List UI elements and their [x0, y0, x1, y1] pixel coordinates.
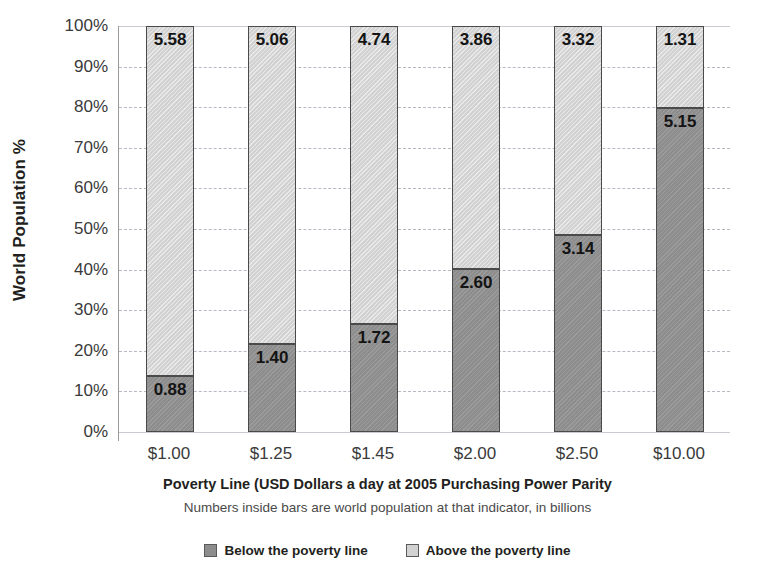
bar-value-label: 1.31: [657, 30, 703, 50]
bar-column[interactable]: 5.580.88: [146, 26, 194, 432]
bar-segment-below-poverty-line[interactable]: 1.72: [350, 324, 398, 432]
y-axis-tick-labels: 0%10%20%30%40%50%60%70%80%90%100%: [40, 26, 112, 432]
y-axis-tick-label: 10%: [74, 381, 108, 401]
y-axis-tick-label: 20%: [74, 341, 108, 361]
bar-segment-above-poverty-line[interactable]: 1.31: [656, 26, 704, 108]
bar-segment-below-poverty-line[interactable]: 5.15: [656, 108, 704, 432]
gridline: [119, 310, 730, 311]
bar-segment-below-poverty-line[interactable]: 2.60: [452, 269, 500, 432]
y-axis-tick-label: 40%: [74, 260, 108, 280]
bar-segment-above-poverty-line[interactable]: 3.86: [452, 26, 500, 269]
bar-value-label: 3.32: [555, 30, 601, 50]
bar-segment-below-poverty-line[interactable]: 1.40: [248, 344, 296, 432]
x-axis-tick-label: $1.25: [250, 444, 293, 464]
legend-swatch-icon: [406, 544, 419, 557]
gridline: [119, 188, 730, 189]
gridline: [119, 107, 730, 108]
bar-value-label: 2.60: [453, 273, 499, 293]
x-axis-tick-label: $2.50: [556, 444, 599, 464]
x-axis-tick-label: $1.45: [352, 444, 395, 464]
bar-segment-above-poverty-line[interactable]: 5.58: [146, 26, 194, 376]
plot-area: 5.580.885.061.404.741.723.862.603.323.14…: [118, 26, 730, 432]
y-axis-tick-label: 30%: [74, 300, 108, 320]
bar-value-label: 3.14: [555, 239, 601, 259]
bar-segment-above-poverty-line[interactable]: 5.06: [248, 26, 296, 344]
y-axis-tick-label: 0%: [83, 422, 108, 442]
y-axis-title-label: World Population %: [10, 139, 30, 301]
chart-legend: Below the poverty lineAbove the poverty …: [0, 543, 775, 558]
gridline: [119, 270, 730, 271]
bar-value-label: 1.72: [351, 328, 397, 348]
bar-segment-below-poverty-line[interactable]: 0.88: [146, 376, 194, 432]
bar-column[interactable]: 3.862.60: [452, 26, 500, 432]
x-axis-tick-label: $2.00: [454, 444, 497, 464]
y-axis-tick-label: 100%: [65, 16, 108, 36]
bar-column[interactable]: 5.061.40: [248, 26, 296, 432]
bar-column[interactable]: 4.741.72: [350, 26, 398, 432]
legend-label: Below the poverty line: [224, 543, 367, 558]
gridline: [119, 432, 730, 433]
bar-column[interactable]: 3.323.14: [554, 26, 602, 432]
gridline: [119, 391, 730, 392]
y-axis-tick-label: 60%: [74, 178, 108, 198]
bar-segment-above-poverty-line[interactable]: 4.74: [350, 26, 398, 324]
bar-value-label: 5.06: [249, 30, 295, 50]
gridline: [119, 148, 730, 149]
x-axis-tick-label: $1.00: [148, 444, 191, 464]
bar-value-label: 4.74: [351, 30, 397, 50]
bar-value-label: 5.58: [147, 30, 193, 50]
bar-value-label: 0.88: [147, 380, 193, 400]
x-axis-title: Poverty Line (USD Dollars a day at 2005 …: [0, 476, 775, 492]
gridline: [119, 67, 730, 68]
y-axis-tick-label: 70%: [74, 138, 108, 158]
legend-label: Above the poverty line: [426, 543, 571, 558]
y-axis-tick-label: 50%: [74, 219, 108, 239]
gridline: [119, 351, 730, 352]
x-axis-tick-label: $10.00: [653, 444, 705, 464]
y-axis-tick-label: 80%: [74, 97, 108, 117]
bar-column[interactable]: 1.315.15: [656, 26, 704, 432]
legend-item[interactable]: Below the poverty line: [204, 543, 367, 558]
gridline: [119, 229, 730, 230]
bar-value-label: 1.40: [249, 348, 295, 368]
bar-segment-below-poverty-line[interactable]: 3.14: [554, 235, 602, 432]
gridline: [119, 26, 730, 27]
chart-note: Numbers inside bars are world population…: [0, 500, 775, 515]
legend-item[interactable]: Above the poverty line: [406, 543, 571, 558]
x-axis-tick-labels: $1.00$1.25$1.45$2.00$2.50$10.00: [118, 444, 730, 470]
y-axis-tick-label: 90%: [74, 57, 108, 77]
legend-swatch-icon: [204, 544, 217, 557]
bar-segment-above-poverty-line[interactable]: 3.32: [554, 26, 602, 235]
y-axis-line: [118, 432, 119, 441]
y-axis-title: World Population %: [0, 0, 40, 440]
bar-value-label: 3.86: [453, 30, 499, 50]
bar-value-label: 5.15: [657, 112, 703, 132]
